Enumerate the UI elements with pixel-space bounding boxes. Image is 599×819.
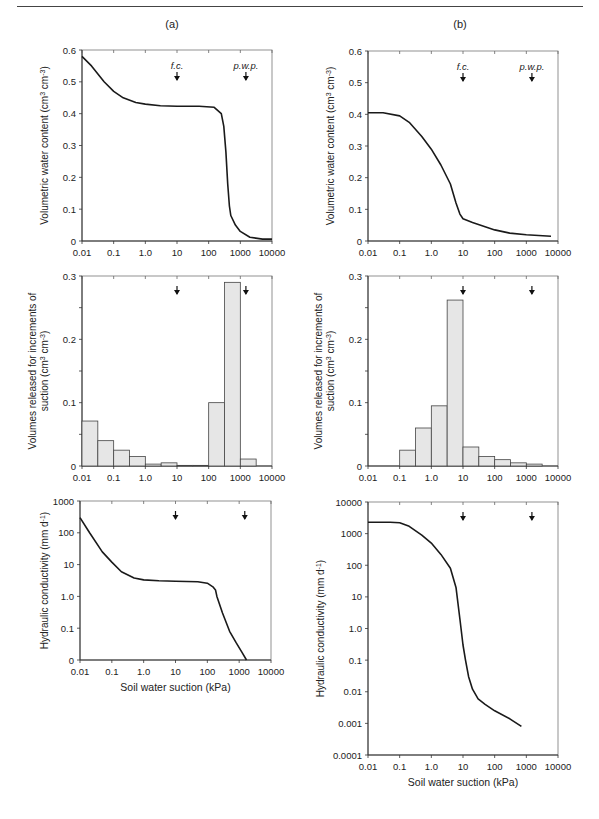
x-tick-label: 10000 [545, 472, 571, 483]
histogram-bar [161, 463, 177, 466]
x-tick-label: 10 [458, 472, 469, 483]
marker-label-pwp: p.w.p. [518, 61, 544, 72]
y-tick-label: 0.5 [63, 76, 76, 87]
x-axis-label: Soil water suction (kPa) [120, 681, 230, 693]
histogram-bar [98, 441, 114, 466]
data-curve [368, 113, 551, 237]
arrow-down-icon-fc [174, 72, 180, 81]
arrow-down-icon-fc [460, 286, 466, 295]
panel-label-a: (a) [165, 18, 178, 30]
histogram-bar [224, 282, 240, 466]
x-tick-label: 0.01 [71, 666, 90, 677]
x-tick-label: 100 [487, 761, 503, 772]
arrow-down-icon-pwp [243, 72, 249, 81]
x-tick-label: 0.01 [73, 472, 92, 483]
y-tick-label: 0.3 [63, 140, 76, 151]
y-axis-label-line2: suction (cm3 cm-3) [39, 331, 51, 412]
histogram-bar [114, 450, 130, 466]
y-tick-label: 0.2 [63, 172, 76, 183]
y-axis-label: Volumes released for increments of [313, 292, 324, 449]
x-tick-label: 1000 [230, 472, 251, 483]
x-tick-label: 10000 [545, 761, 571, 772]
y-tick-label: 0.1 [63, 204, 76, 215]
y-axis-label: Volumes released for increments of [27, 292, 38, 449]
histogram-bar [463, 447, 479, 466]
y-tick-label: 0.2 [349, 334, 362, 345]
arrow-down-icon-pwp [529, 73, 535, 82]
x-tick-label: 1.0 [139, 247, 152, 258]
x-tick-label: 10 [170, 666, 181, 677]
y-tick-label: 0 [357, 236, 362, 247]
x-tick-label: 1.0 [425, 761, 438, 772]
y-tick-label: 10 [63, 559, 74, 570]
y-axis-label: Volumetric water content (cm3 cm-3) [325, 67, 337, 226]
histogram-bar [495, 460, 511, 466]
histogram-bar [82, 421, 98, 466]
x-tick-label: 0.1 [107, 247, 120, 258]
y-tick-label: 10 [351, 591, 362, 602]
x-tick-label: 100 [201, 247, 217, 258]
histogram-bar [479, 457, 495, 467]
y-tick-label: 0.1 [61, 623, 74, 634]
chart-a-increments: 0.010.11.01010010001000000.10.20.3Volume… [27, 271, 285, 484]
x-tick-label: 100 [487, 472, 503, 483]
marker-label-pwp: p.w.p. [232, 60, 258, 71]
y-axis-label: Volumetric water content (cm3 cm-3) [39, 66, 51, 225]
x-tick-label: 100 [199, 666, 215, 677]
x-tick-label: 1.0 [139, 472, 152, 483]
arrow-down-icon-pwp [243, 286, 249, 295]
arrow-down-icon-pwp [242, 511, 248, 520]
y-tick-label: 0.0001 [333, 750, 362, 761]
y-tick-label: 0.3 [63, 271, 76, 282]
x-tick-label: 1.0 [425, 472, 438, 483]
arrow-down-icon-fc [174, 286, 180, 295]
x-tick-label: 1000 [230, 247, 251, 258]
y-tick-label: 0.001 [338, 718, 362, 729]
x-tick-label: 10000 [258, 666, 284, 677]
histogram-bar [447, 300, 463, 466]
marker-label-fc: f.c. [171, 60, 184, 71]
x-tick-label: 0.01 [359, 247, 378, 258]
x-tick-label: 10000 [259, 247, 285, 258]
y-tick-label: 0 [71, 236, 76, 247]
y-tick-label: 0.2 [63, 334, 76, 345]
y-tick-label: 0.1 [349, 397, 362, 408]
x-tick-label: 100 [487, 247, 503, 258]
x-tick-label: 10 [172, 247, 183, 258]
histogram-bar [193, 465, 209, 466]
y-tick-label: 0 [69, 655, 74, 666]
y-tick-label: 1.0 [349, 623, 362, 634]
y-tick-label: 0.4 [349, 109, 362, 120]
x-tick-label: 0.1 [105, 666, 118, 677]
chart-b-conductivity: 0.010.11.0101001000100000.00010.0010.010… [315, 497, 572, 789]
arrow-down-icon-fc [460, 512, 466, 521]
data-curve [82, 56, 272, 239]
x-tick-label: 10 [458, 247, 469, 258]
x-tick-label: 0.01 [359, 761, 378, 772]
arrow-down-icon-fc [460, 73, 466, 82]
x-tick-label: 1000 [516, 761, 537, 772]
x-tick-label: 0.01 [359, 472, 378, 483]
chart-a-retention: 0.010.11.01010010001000000.10.20.30.40.5… [39, 45, 286, 259]
x-tick-label: 1000 [516, 247, 537, 258]
arrow-down-icon-pwp [529, 512, 535, 521]
y-tick-label: 10000 [336, 497, 362, 508]
y-tick-label: 0.1 [63, 397, 76, 408]
x-tick-label: 0.1 [393, 472, 406, 483]
panel-label-b: (b) [453, 18, 466, 30]
y-tick-label: 0 [71, 461, 76, 472]
x-tick-label: 0.1 [393, 761, 406, 772]
figure-canvas: (a)(b)0.010.11.01010010001000000.10.20.3… [0, 0, 599, 819]
arrow-down-icon-fc [173, 511, 179, 520]
arrow-down-icon-pwp [529, 286, 535, 295]
histogram-bar [510, 463, 526, 466]
x-tick-label: 10000 [545, 247, 571, 258]
y-tick-label: 0.01 [344, 686, 363, 697]
y-tick-label: 0.6 [63, 45, 76, 56]
x-tick-label: 10000 [259, 472, 285, 483]
histogram-bar [240, 459, 256, 466]
y-tick-label: 1000 [53, 496, 74, 507]
y-tick-label: 0.6 [349, 46, 362, 57]
y-axis-label: Hydraulic conductivity (mm d-1) [39, 512, 51, 649]
x-tick-label: 100 [201, 472, 217, 483]
